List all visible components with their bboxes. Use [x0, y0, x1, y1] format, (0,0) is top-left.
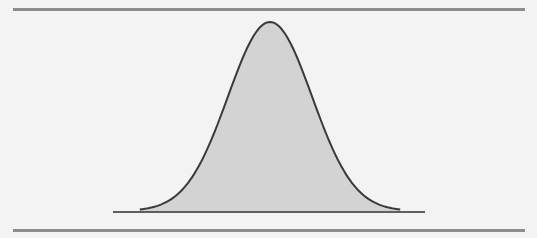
shaded-area-under-curve: [140, 22, 400, 211]
bell-curve-figure: [0, 0, 537, 238]
normal-distribution-plot: [0, 0, 537, 238]
bottom-rule: [13, 229, 525, 232]
